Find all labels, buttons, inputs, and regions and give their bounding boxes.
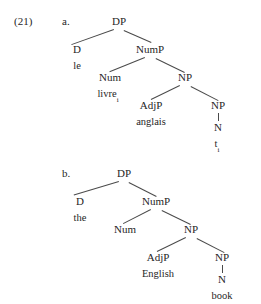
tree-b-stem-np-n: [222, 265, 223, 273]
tree-a-lex-trace: ti: [215, 138, 220, 149]
tree-b-node-n: N: [218, 274, 226, 285]
tree-a-branch-nump-num: [109, 57, 145, 72]
syntax-tree-figure: (21) a. DP D le NumP Num livrei NP AdjP …: [0, 0, 261, 304]
tree-a-branch-dp-nump: [124, 30, 152, 43]
tree-a-branch-dp-d: [72, 29, 114, 45]
tree-b-lex-book: book: [212, 290, 233, 301]
tree-b-branch-dp-d: [74, 181, 119, 195]
tree-b-node-np-outer: NP: [184, 224, 198, 235]
tree-b-node-nump: NumP: [142, 196, 170, 207]
tree-a-node-np-inner: NP: [211, 100, 225, 111]
tree-b-lex-the: the: [74, 212, 87, 223]
tree-b-node-num: Num: [114, 224, 136, 235]
tree-a-branch-nump-np: [156, 58, 185, 73]
tree-a-node-np-outer: NP: [178, 72, 192, 83]
tree-a-node-nump: NumP: [136, 44, 164, 55]
tree-b-node-dp: DP: [117, 168, 131, 179]
tree-b-lex-english: English: [142, 268, 174, 279]
tree-b-node-adjp: AdjP: [147, 252, 170, 263]
tree-a-stem-np-n: [218, 113, 219, 121]
tree-a-branch-np-adjp: [151, 85, 180, 100]
tree-a-node-n: N: [214, 122, 222, 133]
tree-a-lex-livre: livrei: [97, 88, 118, 99]
tree-a-lex-livre-index: i: [117, 96, 119, 104]
tree-a-node-dp: DP: [112, 16, 126, 27]
tree-b-node-d: D: [76, 196, 84, 207]
tree-a-lex-le: le: [73, 60, 81, 71]
tree-a-lex-anglais: anglais: [136, 116, 166, 127]
tree-a-node-num: Num: [99, 72, 121, 83]
tree-a-lex-livre-text: livre: [97, 88, 116, 99]
tree-b-node-np-inner: NP: [215, 252, 229, 263]
example-letter-b: b.: [62, 168, 70, 179]
example-number: (21): [14, 16, 32, 27]
tree-b-branch-np-adjp: [157, 237, 186, 252]
example-letter-a: a.: [62, 16, 70, 27]
tree-b-branch-np-npinner: [197, 238, 225, 253]
tree-a-node-d: D: [73, 44, 81, 55]
tree-a-branch-np-npinner: [191, 86, 219, 101]
tree-a-lex-trace-index: i: [217, 146, 219, 154]
tree-b-branch-nump-np: [162, 210, 191, 225]
tree-a-node-adjp: AdjP: [140, 100, 163, 111]
tree-b-branch-nump-num: [123, 209, 151, 224]
